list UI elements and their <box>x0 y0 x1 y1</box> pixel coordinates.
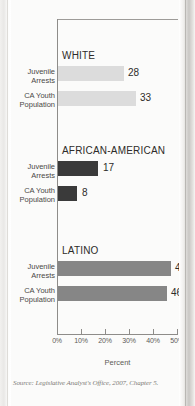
bar-value-white-ca-youth-population: 33 <box>140 92 151 103</box>
bar-category-label: CA Youth Population <box>7 92 55 109</box>
bar-category-label-line2: Arrests <box>7 272 55 281</box>
bar-category-label: Juvenile Arrests <box>7 68 55 85</box>
bar-chart-plot-area: WHITE Juvenile Arrests 28 CA Youth Popul… <box>0 0 195 406</box>
group-title-african-american: AFRICAN-AMERICAN <box>62 145 165 156</box>
bar-category-label-line2: Arrests <box>7 172 55 181</box>
bar-white-ca-youth-population <box>58 91 136 106</box>
x-axis-tick-label: 20% <box>92 337 118 344</box>
group-title-latino: LATINO <box>62 245 99 256</box>
scan-right-edge-shadow <box>179 0 195 406</box>
bar-value-african-american-ca-youth-population: 8 <box>82 187 88 198</box>
bar-white-juvenile-arrests <box>58 66 124 81</box>
bar-value-african-american-juvenile-arrests: 17 <box>103 162 114 173</box>
x-axis-tick <box>177 329 178 334</box>
x-axis-tick-label: 40% <box>140 337 166 344</box>
bar-category-label-line2: Population <box>7 296 55 305</box>
x-axis-line <box>57 334 178 335</box>
bar-category-label: CA Youth Population <box>7 187 55 204</box>
x-axis-tick <box>153 329 154 334</box>
figure-page: WHITE Juvenile Arrests 28 CA Youth Popul… <box>0 0 195 406</box>
group-title-white: WHITE <box>62 50 95 61</box>
bar-category-label: Juvenile Arrests <box>7 163 55 180</box>
bar-category-label-line2: Population <box>7 101 55 110</box>
bar-category-label: Juvenile Arrests <box>7 263 55 280</box>
bar-category-label: CA Youth Population <box>7 287 55 304</box>
scan-right-edge-line <box>185 0 186 406</box>
source-citation: Source: Legislative Analyst's Office, 20… <box>13 379 185 387</box>
bar-category-label-line2: Arrests <box>7 77 55 86</box>
bar-african-american-ca-youth-population <box>58 186 77 201</box>
bar-value-white-juvenile-arrests: 28 <box>128 67 139 78</box>
x-axis-tick-label: 0% <box>44 337 70 344</box>
x-axis-tick-label: 30% <box>116 337 142 344</box>
bar-african-american-juvenile-arrests <box>58 161 98 176</box>
bar-latino-juvenile-arrests <box>58 261 171 276</box>
x-axis-title: Percent <box>57 358 178 367</box>
x-axis-tick <box>57 329 58 334</box>
bar-latino-ca-youth-population <box>58 286 167 301</box>
x-axis-tick-label: 10% <box>68 337 94 344</box>
plot-top-rule <box>57 19 178 20</box>
x-axis-tick <box>105 329 106 334</box>
x-axis-tick <box>129 329 130 334</box>
x-axis-tick <box>81 329 82 334</box>
bar-category-label-line2: Population <box>7 196 55 205</box>
